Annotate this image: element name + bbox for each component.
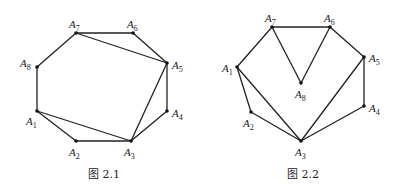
edge-a5-a7	[76, 33, 167, 63]
edge-a7-a1	[237, 27, 272, 67]
vertex-label-a1: A1	[25, 115, 37, 130]
edge-a2-a3	[251, 112, 301, 141]
edge-a8-a6	[301, 27, 330, 83]
edge-a7-a8	[272, 27, 301, 83]
vertex-label-a6: A6	[323, 12, 335, 27]
vertex-a5	[165, 61, 169, 65]
vertex-a2	[74, 139, 78, 143]
vertex-label-a8: A8	[294, 88, 306, 103]
vertex-label-a2: A2	[68, 146, 80, 161]
vertex-label-a3: A3	[294, 146, 306, 161]
edge-a5-a6	[133, 33, 167, 63]
edge-a3-a5	[301, 57, 364, 141]
vertex-a4	[165, 109, 169, 113]
vertex-a1	[35, 109, 39, 113]
figure-2-1-edges	[37, 33, 167, 141]
vertex-label-a4: A4	[368, 102, 380, 117]
edge-a5-a6	[330, 27, 364, 57]
vertex-label-a3: A3	[123, 146, 135, 161]
vertex-a5	[362, 55, 366, 59]
vertex-a4	[362, 104, 366, 108]
edge-a1-a2	[37, 111, 76, 141]
vertex-label-a6: A6	[126, 18, 138, 33]
vertex-a8	[299, 81, 303, 85]
edge-a1-a3	[237, 67, 301, 141]
figure-2-2: A1A2A3A4A5A6A7A8 图 2.2	[221, 12, 380, 181]
vertex-a8	[35, 65, 39, 69]
vertex-a3	[129, 139, 133, 143]
edge-a1-a3	[37, 111, 131, 141]
vertex-a2	[249, 110, 253, 114]
vertex-label-a4: A4	[171, 107, 183, 122]
vertex-label-a2: A2	[242, 117, 254, 132]
figure-2-2-labels: A1A2A3A4A5A6A7A8	[221, 12, 380, 161]
figure-2-1-labels: A1A2A3A4A5A6A7A8	[19, 18, 183, 161]
edge-a7-a8	[37, 33, 76, 67]
vertex-label-a5: A5	[368, 52, 380, 67]
diagram-canvas: A1A2A3A4A5A6A7A8 图 2.1 A1A2A3A4A5A6A7A8 …	[0, 0, 396, 196]
vertex-label-a7: A7	[264, 12, 276, 27]
edge-a3-a4	[131, 111, 167, 141]
vertex-label-a7: A7	[68, 18, 80, 33]
edge-a1-a2	[237, 67, 251, 112]
vertex-label-a1: A1	[221, 62, 233, 77]
vertex-label-a5: A5	[171, 59, 183, 74]
vertex-label-a8: A8	[19, 57, 31, 72]
figure-2-1: A1A2A3A4A5A6A7A8 图 2.1	[19, 18, 183, 181]
vertex-a3	[299, 139, 303, 143]
vertex-a1	[235, 65, 239, 69]
figure-2-1-caption: 图 2.1	[88, 168, 120, 181]
edge-a3-a5	[131, 63, 167, 141]
figure-2-2-vertices	[235, 25, 366, 143]
edge-a3-a4	[301, 106, 364, 141]
figure-2-2-caption: 图 2.2	[287, 168, 319, 181]
